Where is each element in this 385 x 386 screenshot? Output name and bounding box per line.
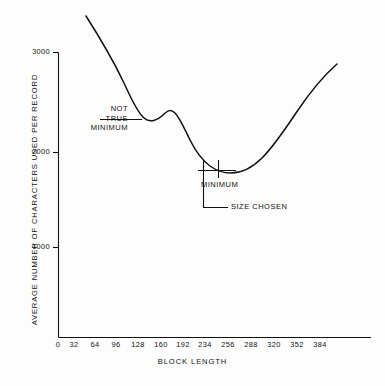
x-tick-label-288: 288 bbox=[239, 341, 263, 348]
x-tick-label-128: 128 bbox=[126, 341, 150, 348]
chart-container: 3000 2000 1000 0 32 64 96 128 160 192 23… bbox=[0, 0, 385, 386]
annotation-not-true-minimum-line1: NOT bbox=[58, 104, 128, 114]
data-curve bbox=[86, 16, 337, 173]
x-tick-label-320: 320 bbox=[262, 341, 286, 348]
annotation-minimum: MINIMUM bbox=[201, 180, 238, 190]
annotation-not-true-minimum-line2: TRUE bbox=[58, 114, 128, 124]
annotation-not-true-minimum-line3: MINIMUM bbox=[58, 123, 128, 133]
annotation-not-true-minimum: NOT TRUE MINIMUM bbox=[58, 104, 128, 133]
x-tick-label-96: 96 bbox=[106, 341, 126, 348]
x-tick-label-256: 256 bbox=[216, 341, 240, 348]
x-axis-title: BLOCK LENGTH bbox=[0, 357, 385, 366]
x-tick-label-32: 32 bbox=[64, 341, 84, 348]
x-tick-label-160: 160 bbox=[149, 341, 173, 348]
x-tick-label-352: 352 bbox=[285, 341, 309, 348]
x-tick-label-64: 64 bbox=[85, 341, 105, 348]
chart-plot-area bbox=[0, 0, 385, 386]
x-tick-label-384: 384 bbox=[308, 341, 332, 348]
annotation-size-chosen: SIZE CHOSEN bbox=[231, 202, 287, 212]
x-tick-label-192: 192 bbox=[171, 341, 195, 348]
x-tick-label-234: 234 bbox=[193, 341, 217, 348]
y-axis-title: AVERAGE NUMBER OF CHARACTERS USED PER RE… bbox=[30, 50, 39, 350]
